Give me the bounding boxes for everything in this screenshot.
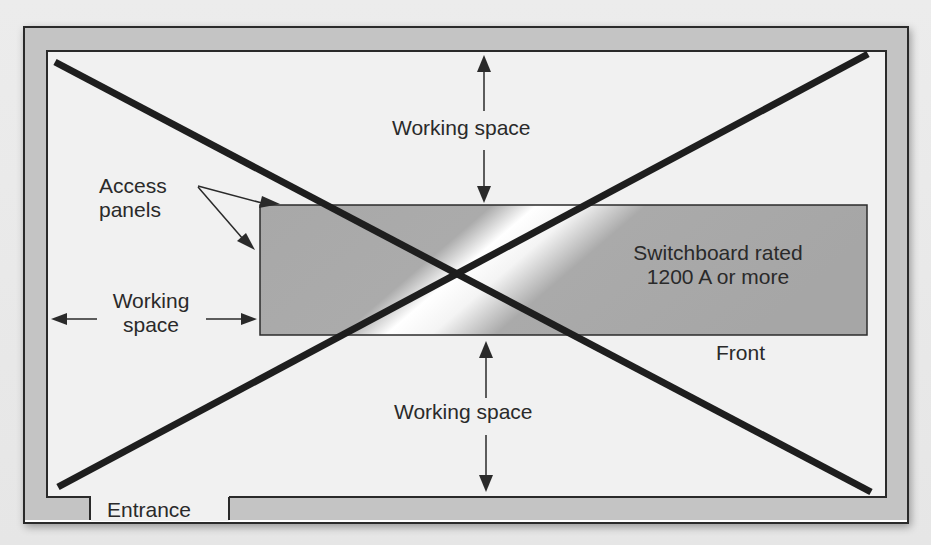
working-space-left-line2: space: [99, 313, 203, 337]
front-label: Front: [716, 341, 765, 365]
switchboard-line1: Switchboard rated: [578, 241, 858, 265]
switchboard-label: Switchboard rated 1200 A or more: [578, 241, 858, 289]
working-space-left-line1: Working: [99, 289, 203, 313]
working-space-top-label: Working space: [392, 116, 531, 140]
working-space-left-label: Working space: [99, 289, 203, 337]
access-panels-line1: Access: [99, 174, 167, 198]
entrance-label: Entrance: [107, 498, 191, 522]
working-space-bottom-label: Working space: [394, 400, 533, 424]
switchboard-line2: 1200 A or more: [578, 265, 858, 289]
access-panels-label: Access panels: [99, 174, 167, 222]
access-panels-line2: panels: [99, 198, 167, 222]
